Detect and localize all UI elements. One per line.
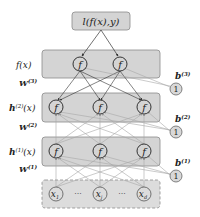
bias-label-3: b(3) [175, 71, 191, 81]
hidden-layer-2-label: h(2)(x) [9, 103, 36, 113]
layer-labels: f(x) W(3) h(2)(x) W(2) h(1)(x) W(1) [9, 60, 37, 174]
bias-label-2: b(2) [175, 114, 191, 124]
bias-node-label: 1 [173, 172, 178, 181]
bias-node-label: 1 [173, 128, 178, 137]
neural-network-diagram: l(f(x),y) [0, 0, 200, 217]
ellipsis: ··· [118, 189, 126, 198]
weight-label-1: W(1) [19, 164, 37, 174]
bias-label-1: b(1) [175, 158, 191, 168]
loss-label: l(f(x),y) [83, 16, 120, 27]
neuron-node: f [73, 57, 87, 71]
output-layer-label: f(x) [15, 60, 32, 70]
bias-node-label: 1 [173, 85, 178, 94]
output-layer-box [42, 50, 160, 78]
weight-label-3: W(3) [19, 78, 37, 88]
weight-label-2: W(2) [19, 122, 37, 132]
neuron-node: f [113, 57, 127, 71]
ellipsis: ··· [74, 189, 82, 198]
hidden-layer-1-label: h(1)(x) [9, 147, 36, 157]
loss-box: l(f(x),y) [72, 12, 130, 30]
